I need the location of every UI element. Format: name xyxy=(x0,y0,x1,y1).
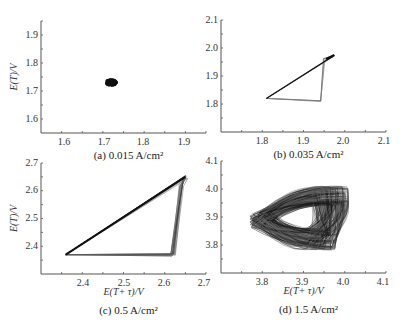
x-tick-label: 1.6 xyxy=(58,136,71,147)
x-tick-label: 1.8 xyxy=(256,135,269,146)
y-tick-label: 2.5 xyxy=(26,212,39,223)
subplot-a: 1.61.71.81.91.61.71.81.9E(T)/V(a) 0.015 … xyxy=(8,21,206,162)
y-tick-label: 3.8 xyxy=(206,239,219,250)
x-tick-label: 2.1 xyxy=(378,135,391,146)
y-tick-label: 2.4 xyxy=(26,240,39,251)
subplot-caption: (a) 0.015 A/cm² xyxy=(94,149,164,162)
y-axis-label: E(T)/V xyxy=(8,62,20,92)
y-axis-label: E(T)/V xyxy=(8,203,20,233)
x-tick-label: 1.7 xyxy=(98,136,111,147)
x-tick-label: 4.0 xyxy=(337,276,350,287)
y-tick-label: 4.1 xyxy=(206,155,219,166)
subplot-b: 1.81.92.02.11.81.92.02.1(b) 0.035 A/cm² xyxy=(206,14,391,161)
y-tick-label: 3.9 xyxy=(206,211,219,222)
y-tick-label: 2.0 xyxy=(206,42,219,53)
subplot-caption: (d) 1.5 A/cm² xyxy=(279,303,339,316)
x-tick-label: 1.9 xyxy=(297,135,310,146)
subplot-caption: (b) 0.035 A/cm² xyxy=(273,148,344,161)
x-tick-label: 3.8 xyxy=(256,276,269,287)
y-tick-label: 1.6 xyxy=(26,113,39,124)
x-tick-label: 2.0 xyxy=(337,135,350,146)
y-tick-label: 1.7 xyxy=(26,85,39,96)
y-tick-label: 2.7 xyxy=(26,157,39,168)
x-tick-label: 2.6 xyxy=(158,277,171,288)
subplot-d: 3.83.94.04.13.83.94.04.1E(T+ τ)/V(d) 1.5… xyxy=(206,155,390,316)
subplot-caption: (c) 0.5 A/cm² xyxy=(99,304,158,317)
phase-portrait-figure: 1.61.71.81.91.61.71.81.9E(T)/V(a) 0.015 … xyxy=(0,0,406,330)
y-tick-label: 4.0 xyxy=(206,183,219,194)
x-tick-label: 1.9 xyxy=(178,136,191,147)
x-tick-label: 4.1 xyxy=(377,276,390,287)
x-tick-label: 2.7 xyxy=(198,277,211,288)
y-tick-label: 2.1 xyxy=(206,14,219,25)
y-tick-label: 1.9 xyxy=(206,70,219,81)
x-tick-label: 2.4 xyxy=(77,277,90,288)
y-tick-label: 1.8 xyxy=(26,57,39,68)
y-tick-label: 1.8 xyxy=(206,98,219,109)
x-tick-label: 1.8 xyxy=(137,136,150,147)
y-tick-label: 2.6 xyxy=(26,184,39,195)
y-tick-label: 1.9 xyxy=(26,29,39,40)
x-axis-label: E(T+ τ)/V xyxy=(282,285,325,297)
x-axis-label: E(T+ τ)/V xyxy=(102,286,145,298)
subplot-c: 2.42.52.62.72.42.52.62.7E(T)/VE(T+ τ)/V(… xyxy=(8,157,210,317)
